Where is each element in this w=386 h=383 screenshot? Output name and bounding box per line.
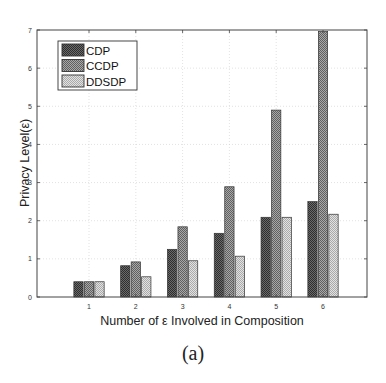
bar-cdp-5 xyxy=(261,217,270,297)
bar-cdp-4 xyxy=(214,233,223,297)
bar-ddsdp-6 xyxy=(329,214,338,297)
x-tick-label: 1 xyxy=(87,303,91,310)
x-tick-label: 2 xyxy=(134,303,138,310)
y-tick-label: 7 xyxy=(28,27,32,34)
bar-ddsdp-3 xyxy=(188,261,197,297)
legend-label-cdp: CDP xyxy=(86,45,111,57)
bar-ddsdp-1 xyxy=(95,282,104,297)
bar-cdp-2 xyxy=(121,266,130,297)
bar-ddsdp-2 xyxy=(142,277,151,297)
legend-label-ddsdp: DDSDP xyxy=(86,76,127,88)
x-tick-label: 3 xyxy=(181,303,185,310)
y-axis-label: Privacy Level(ε) xyxy=(18,119,32,207)
bar-ccdp-6 xyxy=(318,32,327,297)
bar-cdp-3 xyxy=(167,249,176,297)
x-axis-label: Number of ε Involved in Composition xyxy=(100,314,304,328)
y-tick-label: 6 xyxy=(28,65,32,72)
bar-chart: 01234567123456 CDPCCDPDDSDP Number of ε … xyxy=(0,0,386,340)
bar-ccdp-2 xyxy=(131,262,140,297)
x-tick-label: 6 xyxy=(321,303,325,310)
y-tick-label: 1 xyxy=(28,255,32,262)
bar-ddsdp-5 xyxy=(282,217,291,297)
bar-ccdp-3 xyxy=(178,227,187,297)
bar-ccdp-4 xyxy=(225,187,234,297)
legend-swatch-ccdp xyxy=(62,60,84,72)
legend-swatch-cdp xyxy=(62,44,84,56)
bar-cdp-6 xyxy=(308,202,317,297)
bar-ddsdp-4 xyxy=(235,256,244,297)
x-tick-label: 5 xyxy=(274,303,278,310)
y-tick-label: 2 xyxy=(28,217,32,224)
y-tick-label: 5 xyxy=(28,103,32,110)
y-tick-label: 0 xyxy=(28,294,32,301)
legend: CDPCCDPDDSDP xyxy=(58,41,137,90)
x-tick-label: 4 xyxy=(227,303,231,310)
bar-cdp-1 xyxy=(74,282,83,297)
figure-caption: (a) xyxy=(0,342,386,365)
bar-ccdp-5 xyxy=(272,110,281,297)
legend-label-ccdp: CCDP xyxy=(86,60,119,72)
legend-swatch-ddsdp xyxy=(62,75,84,87)
